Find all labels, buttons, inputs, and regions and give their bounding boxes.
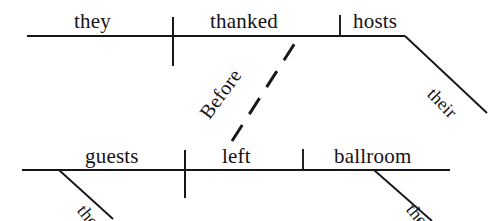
word-hosts: hosts — [353, 11, 397, 32]
word-they: they — [74, 11, 111, 32]
word-thanked: thanked — [210, 11, 278, 32]
word-ballroom: ballroom — [334, 146, 411, 167]
sentence-diagram: they thanked hosts their Before guests l… — [0, 0, 494, 221]
diagram-strokes-layer — [0, 0, 494, 221]
conjunction-dashed-connector — [232, 43, 295, 141]
word-left: left — [222, 146, 251, 167]
word-guests: guests — [85, 146, 139, 167]
